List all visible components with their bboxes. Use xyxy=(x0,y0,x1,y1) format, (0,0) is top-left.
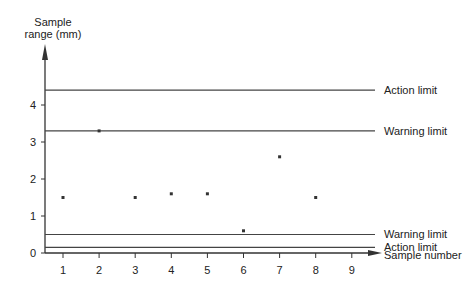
limit-label: Warning limit xyxy=(384,125,447,137)
data-point-marker xyxy=(134,196,137,199)
data-point-marker xyxy=(314,196,317,199)
data-point-marker xyxy=(62,196,65,199)
y-tick-label: 3 xyxy=(30,136,36,148)
y-tick-label: 2 xyxy=(30,173,36,185)
data-point-marker xyxy=(278,155,281,158)
x-tick-label: 1 xyxy=(60,264,66,276)
y-axis-arrow-icon xyxy=(42,44,48,60)
x-tick-label: 8 xyxy=(313,264,319,276)
y-tick-label: 4 xyxy=(30,99,36,111)
chart-plot-area: 01234123456789Action limitWarning limitW… xyxy=(0,0,476,288)
x-tick-label: 5 xyxy=(204,264,210,276)
data-point-marker xyxy=(242,229,245,232)
data-point-marker xyxy=(98,129,101,132)
data-point-marker xyxy=(206,192,209,195)
x-tick-label: 9 xyxy=(349,264,355,276)
x-tick-label: 7 xyxy=(277,264,283,276)
x-tick-label: 2 xyxy=(96,264,102,276)
limit-label: Warning limit xyxy=(384,228,447,240)
data-point-marker xyxy=(170,192,173,195)
y-tick-label: 1 xyxy=(30,210,36,222)
x-tick-label: 6 xyxy=(240,264,246,276)
y-tick-label: 0 xyxy=(30,247,36,259)
x-tick-label: 3 xyxy=(132,264,138,276)
x-axis-label: Sample number xyxy=(384,249,462,261)
x-tick-label: 4 xyxy=(168,264,174,276)
x-axis-arrow-icon xyxy=(368,250,382,256)
limit-label: Action limit xyxy=(384,84,437,96)
